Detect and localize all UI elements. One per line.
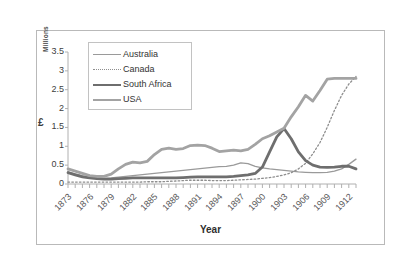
legend-item: USA (92, 91, 191, 106)
chart-screenshot: Millions £ 3.532.521.510.50 187318761879… (0, 0, 416, 263)
legend-item: South Africa (92, 76, 191, 91)
legend-item-label: USA (122, 94, 142, 104)
legend-item-label: Australia (122, 49, 158, 59)
legend-item-label: Canada (122, 64, 155, 74)
legend-item-label: South Africa (122, 79, 172, 89)
legend-item: Australia (92, 46, 191, 61)
legend-line-swatch (92, 64, 122, 74)
series-line-south-africa (68, 129, 356, 180)
legend-line-swatch (92, 49, 122, 59)
chart-legend: AustraliaCanadaSouth AfricaUSA (88, 42, 192, 110)
legend-item: Canada (92, 61, 191, 76)
legend-line-swatch (92, 79, 122, 89)
legend-line-swatch (92, 94, 122, 104)
x-axis-title: Year (36, 224, 385, 235)
